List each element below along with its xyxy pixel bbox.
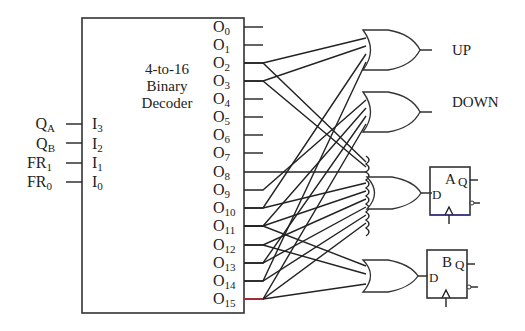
flipflop-a-q: Q xyxy=(458,174,468,189)
clock-icon xyxy=(442,290,450,298)
flipflop-b-q: Q xyxy=(455,257,465,272)
output-label-o12: O12 xyxy=(213,236,236,255)
decoder-title-line1: 4-to-16 xyxy=(145,61,190,77)
output-label-o2: O2 xyxy=(213,54,230,73)
flipflop-b-name: B xyxy=(442,254,452,270)
output-label-o9: O9 xyxy=(213,181,231,200)
input-pin-i1: I1 xyxy=(92,154,103,173)
flipflop-a-name: A xyxy=(445,171,456,187)
output-label-o14: O14 xyxy=(213,272,236,291)
output-label-o8: O8 xyxy=(213,163,231,182)
output-label-o11: O11 xyxy=(213,217,235,236)
or-gate-down xyxy=(363,92,432,132)
wiring xyxy=(244,38,366,299)
output-label-o5: O5 xyxy=(213,108,231,127)
decoder-inputs: QA QB FR1 FR0 I3 I2 I1 I0 xyxy=(27,115,103,192)
flipflop-b: B Q D xyxy=(427,250,478,307)
output-label-o6: O6 xyxy=(213,126,231,145)
output-label-o10: O10 xyxy=(213,199,236,218)
output-label-o7: O7 xyxy=(213,144,231,163)
output-label-o0: O0 xyxy=(213,18,231,37)
input-signal-qb: QB xyxy=(36,135,55,154)
output-label-o3: O3 xyxy=(213,72,231,91)
decoder-title-line2: Binary xyxy=(147,78,188,94)
flipflop-a: A Q D xyxy=(430,167,480,224)
input-pin-i2: I2 xyxy=(92,135,103,154)
input-signal-fr0: FR0 xyxy=(27,173,53,192)
decoder-outputs: O0 O1 O2 O3 O4 O5 O6 O7 O8 O9 O10 O11 O1… xyxy=(213,18,263,309)
output-label-o13: O13 xyxy=(213,254,236,273)
decoder-title-line3: Decoder xyxy=(142,95,193,111)
up-label: UP xyxy=(452,42,471,58)
or-gate-a-input-extension xyxy=(366,156,369,236)
output-label-o1: O1 xyxy=(213,36,230,55)
decoder-counter-circuit: 4-to-16 Binary Decoder QA QB FR1 FR0 I3 … xyxy=(0,0,525,331)
or-gate-up xyxy=(363,30,432,70)
flipflop-b-d: D xyxy=(429,270,438,285)
input-signal-qa: QA xyxy=(35,115,55,134)
input-pin-i3: I3 xyxy=(92,115,103,134)
or-gate-a xyxy=(367,177,432,209)
flipflop-a-d: D xyxy=(432,187,441,202)
input-pin-i0: I0 xyxy=(92,173,103,192)
input-signal-fr1: FR1 xyxy=(27,154,52,173)
down-label: DOWN xyxy=(452,94,499,110)
or-gate-b xyxy=(363,260,428,292)
output-label-o4: O4 xyxy=(213,90,231,109)
clock-icon xyxy=(445,207,453,215)
output-label-o15: O15 xyxy=(213,290,236,309)
